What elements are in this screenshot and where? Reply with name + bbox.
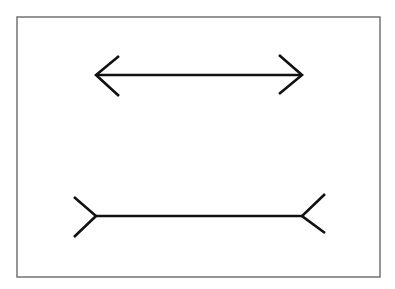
bottom-fin-line <box>74 194 325 237</box>
right-fins-icon <box>302 194 325 233</box>
top-arrow-line <box>96 55 302 96</box>
left-fins-icon <box>74 197 96 237</box>
figure-frame <box>17 17 380 277</box>
muller-lyer-figure <box>0 0 395 289</box>
